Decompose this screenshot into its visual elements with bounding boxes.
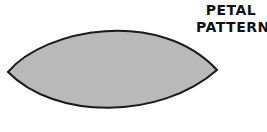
title-line-1: PETAL [196,2,266,19]
pattern-title: PETAL PATTERN [196,2,266,36]
title-line-2: PATTERN [196,19,266,36]
petal-pattern-page: PETAL PATTERN [0,0,267,132]
